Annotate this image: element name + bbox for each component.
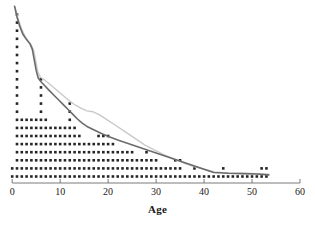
dot-mark (155, 159, 158, 162)
dot-mark (83, 151, 86, 154)
dot-mark (44, 135, 47, 138)
dot-mark (184, 175, 187, 178)
dot-mark (92, 167, 95, 170)
dot-mark (49, 127, 52, 130)
dot-mark (145, 175, 148, 178)
dot-mark (265, 175, 268, 178)
dot-mark (78, 175, 81, 178)
dot-mark (68, 175, 71, 178)
dot-mark (59, 159, 62, 162)
dot-mark (49, 175, 52, 178)
dot-mark (256, 175, 259, 178)
dot-mark (54, 167, 57, 170)
dot-mark (25, 175, 28, 178)
dot-mark (88, 167, 91, 170)
dot-mark (73, 151, 76, 154)
dot-mark (30, 159, 33, 162)
dot-mark (73, 167, 76, 170)
dot-mark (126, 167, 129, 170)
dot-mark (131, 151, 134, 154)
dot-mark (64, 135, 67, 138)
dot-mark (102, 143, 105, 146)
dot-mark (140, 159, 143, 162)
dot-mark (54, 151, 57, 154)
dot-mark (164, 167, 167, 170)
dot-mark (73, 175, 76, 178)
dot-mark (20, 151, 23, 154)
dot-mark (20, 175, 23, 178)
dot-mark (136, 159, 139, 162)
dot-mark (40, 119, 43, 122)
dot-mark (16, 78, 19, 81)
dot-mark (126, 175, 129, 178)
dot-mark (49, 167, 52, 170)
dot-mark (44, 175, 47, 178)
dot-mark (30, 151, 33, 154)
dot-mark (73, 143, 76, 146)
dot-mark (198, 175, 201, 178)
dot-mark (73, 135, 76, 138)
dot-mark (251, 175, 254, 178)
dot-mark (59, 167, 62, 170)
dot-mark (131, 167, 134, 170)
dot-mark (179, 167, 182, 170)
dot-mark (131, 175, 134, 178)
dot-mark (97, 135, 100, 138)
dot-mark (11, 175, 14, 178)
dot-mark (49, 143, 52, 146)
dot-mark (59, 143, 62, 146)
dot-mark (116, 167, 119, 170)
dot-mark (25, 135, 28, 138)
dot-mark (35, 151, 38, 154)
dot-mark (16, 86, 19, 89)
dot-mark (236, 175, 239, 178)
dot-mark (68, 135, 71, 138)
dot-mark (40, 127, 43, 130)
dot-mark (126, 151, 129, 154)
dot-mark (25, 143, 28, 146)
dot-mark (78, 159, 81, 162)
dot-mark (40, 151, 43, 154)
dot-mark (145, 151, 148, 154)
dot-mark (54, 159, 57, 162)
dot-mark (30, 119, 33, 122)
dot-mark (155, 175, 158, 178)
dot-mark (68, 119, 71, 122)
dot-mark (140, 175, 143, 178)
x-tick-label: 10 (55, 186, 65, 197)
dot-mark (193, 175, 196, 178)
dot-mark (169, 167, 172, 170)
dot-mark (54, 127, 57, 130)
dot-mark (97, 159, 100, 162)
dot-mark (68, 143, 71, 146)
dot-mark (203, 175, 206, 178)
dot-mark (40, 175, 43, 178)
dot-mark (16, 54, 19, 57)
dot-mark (107, 151, 110, 154)
dot-mark (59, 127, 62, 130)
dot-mark (35, 143, 38, 146)
dot-mark (150, 167, 153, 170)
dot-mark (44, 167, 47, 170)
dot-mark (112, 175, 115, 178)
dot-mark (78, 151, 81, 154)
dot-mark (54, 135, 57, 138)
dot-mark (16, 167, 19, 170)
dot-mark (16, 46, 19, 49)
x-tick-label: 40 (199, 186, 209, 197)
dot-mark (131, 159, 134, 162)
dot-mark (54, 175, 57, 178)
dot-mark (40, 110, 43, 113)
dot-mark (97, 175, 100, 178)
dot-mark (16, 175, 19, 178)
dot-mark (188, 175, 191, 178)
dot-mark (20, 167, 23, 170)
dot-mark (92, 151, 95, 154)
dot-mark (64, 175, 67, 178)
dot-mark (16, 110, 19, 113)
dot-mark (16, 143, 19, 146)
dot-mark (35, 167, 38, 170)
dot-mark (92, 175, 95, 178)
dot-mark (92, 143, 95, 146)
dot-mark (145, 167, 148, 170)
